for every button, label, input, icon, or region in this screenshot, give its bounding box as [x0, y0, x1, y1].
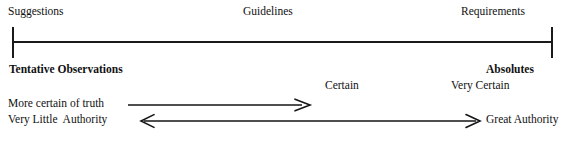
scale-label-middle: Guidelines	[243, 6, 293, 18]
scale-tick-right	[551, 27, 553, 58]
arrow-row-2-right-label: Great Authority	[486, 114, 559, 126]
anchor-label-very-certain: Very Certain	[451, 80, 509, 92]
scale-label-right: Requirements	[461, 6, 525, 18]
arrow-row-2-left-label: Very Little Authority	[8, 114, 107, 126]
scale-label-left: Suggestions	[8, 6, 64, 18]
double-headed-arrow-icon	[140, 112, 482, 130]
anchor-label-certain: Certain	[325, 80, 359, 92]
anchor-label-left-bold: Tentative Observations	[9, 64, 123, 76]
scale-tick-left	[12, 27, 14, 58]
anchor-label-right-bold: Absolutes	[486, 64, 534, 76]
single-right-arrow-icon	[128, 97, 312, 113]
arrow-row-1-left-label: More certain of truth	[8, 98, 104, 110]
scale-diagram: Suggestions Guidelines Requirements Tent…	[0, 0, 568, 141]
scale-axis-line	[12, 41, 553, 43]
